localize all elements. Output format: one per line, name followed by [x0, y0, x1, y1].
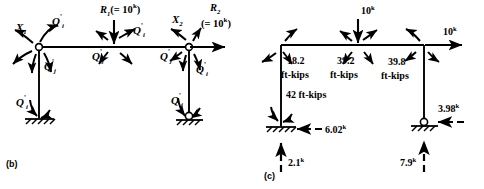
moment-label-qi-joint3-column: Q'i	[196, 63, 208, 78]
moment-value-42: 42 ft-kips	[286, 90, 326, 100]
moment-label-qj-joint1-column: Q'j	[44, 60, 56, 75]
load-label-vertical-10k: 10k	[361, 5, 375, 16]
reaction-label-3-98k: 3.98k	[438, 103, 459, 114]
moment-label-qi-joint1-top: Q'i	[52, 15, 64, 30]
moment-value-39-2: 39.2	[337, 56, 355, 66]
moment-value-39-8: 39.8	[388, 57, 406, 67]
moment-unit-18-2: ft-kips	[281, 70, 309, 80]
load-label-r1: R1(= 10k)	[100, 3, 140, 17]
moment-label-qj-joint2: Q'j	[92, 50, 104, 65]
reaction-label-2-1k: 2.1k	[288, 157, 304, 168]
moment-label-qj-joint3-base: Q'j	[171, 94, 183, 109]
moment-value-18-2: 18.2	[287, 56, 305, 66]
reaction-label-6-02k: 6.02k	[325, 124, 346, 135]
moment-label-qi-joint2: Q'i	[133, 24, 145, 39]
moment-unit-39-2: ft-kips	[330, 70, 358, 80]
part-label-b: (b)	[6, 160, 18, 169]
load-label-horizontal-10k: 10k	[443, 26, 457, 37]
reaction-label-7-9k: 7.9k	[400, 157, 416, 168]
figure-root: X1 X2 R1(= 10k) R2 (= 10k) Q'i Q'j Q'i Q…	[0, 0, 484, 189]
moment-label-qj-joint3: Q'j	[160, 50, 172, 65]
part-b-supports	[25, 112, 203, 125]
part-c-reaction-arrows	[281, 122, 464, 172]
load-label-r2-value: (= 10k)	[201, 17, 231, 29]
load-label-r2: R2	[210, 3, 220, 16]
moment-label-qi-joint1-base: Q'i	[16, 96, 28, 111]
redundant-label-x2: X2	[172, 14, 183, 28]
part-label-c: (c)	[264, 172, 275, 181]
moment-unit-39-8: ft-kips	[381, 71, 409, 81]
part-c-supports	[266, 118, 438, 132]
redundant-label-x1: X1	[16, 22, 27, 36]
